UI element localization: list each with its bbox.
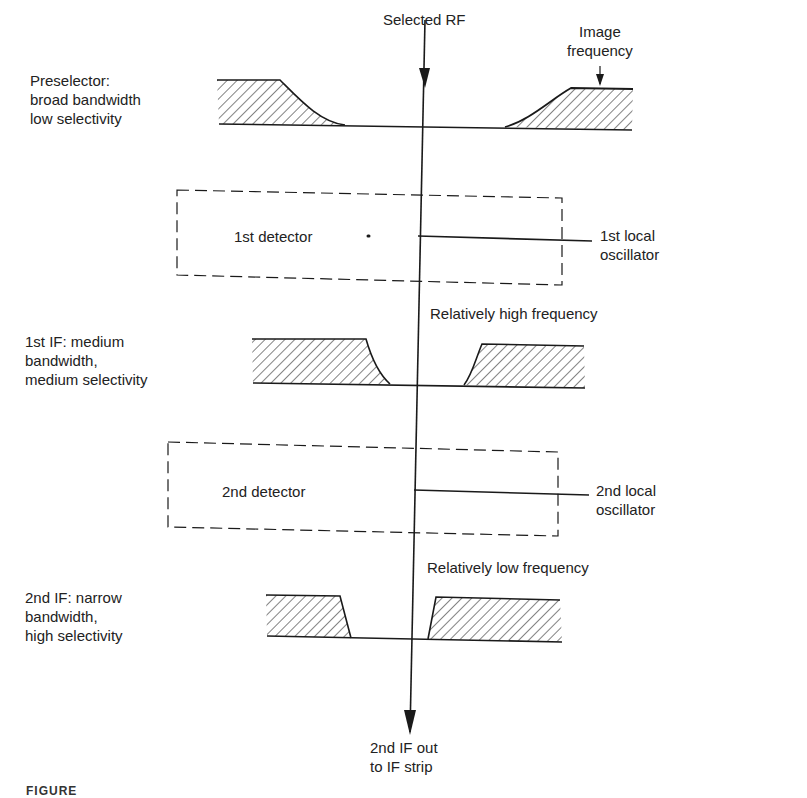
selected-rf-label: Selected RF: [383, 10, 466, 29]
local-oscillator-1-label: 1st local oscillator: [600, 226, 659, 264]
local-oscillator-2-label: 2nd local oscillator: [596, 481, 656, 519]
image-frequency-label: Image frequency: [567, 22, 633, 60]
if-1-output-note: Relatively high frequency: [430, 304, 598, 323]
if-2-response: [266, 595, 562, 642]
input-arrow-icon: [419, 68, 430, 88]
output-arrow-icon: [404, 710, 416, 735]
if-2-output-note: Relatively low frequency: [427, 558, 589, 577]
if-1-label: 1st IF: medium bandwidth, medium selecti…: [25, 332, 148, 389]
if-2-label: 2nd IF: narrow bandwidth, high selectivi…: [25, 588, 123, 645]
preselector-label: Preselector: broad bandwidth low selecti…: [30, 71, 141, 128]
detector-1-label: 1st detector: [234, 227, 312, 246]
output-label: 2nd IF out to IF strip: [370, 738, 438, 776]
detector-2-label: 2nd detector: [222, 482, 305, 501]
image-frequency-arrow-icon: [596, 74, 604, 86]
figure-caption: FIGURE: [26, 784, 77, 798]
